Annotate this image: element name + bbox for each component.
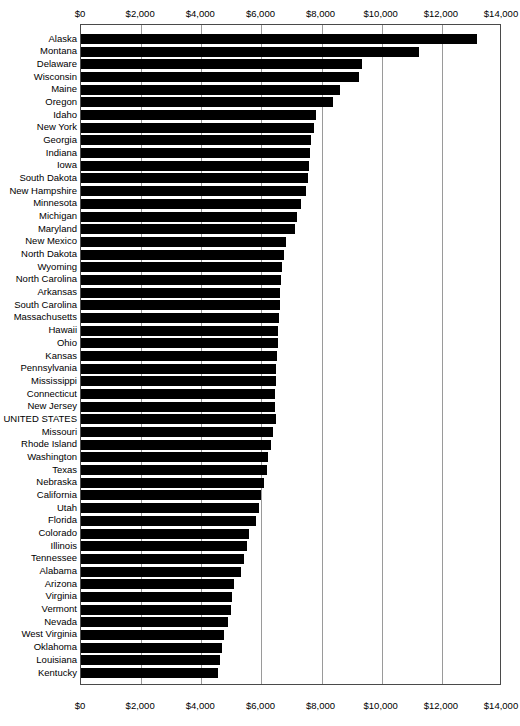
category-label: Florida (0, 514, 77, 525)
bar (81, 478, 264, 488)
plot-area (80, 24, 501, 685)
category-label: Alaska (0, 33, 77, 44)
category-label: Illinois (0, 540, 77, 551)
category-label: New Mexico (0, 235, 77, 246)
category-label: Maine (0, 83, 77, 94)
bar (81, 554, 244, 564)
bar (81, 579, 234, 589)
bar (81, 605, 231, 615)
bar (81, 300, 280, 310)
category-label: California (0, 489, 77, 500)
bar (81, 414, 276, 424)
bar (81, 313, 279, 323)
category-label: Oregon (0, 96, 77, 107)
bar (81, 592, 232, 602)
bar (81, 567, 241, 577)
category-label: Georgia (0, 134, 77, 145)
category-label: Wyoming (0, 261, 77, 272)
bar (81, 186, 306, 196)
category-axis-labels: AlaskaMontanaDelawareWisconsinMaineOrego… (0, 24, 77, 685)
bar (81, 465, 267, 475)
x-tick-label-bottom-6: $12,000 (424, 700, 458, 712)
category-label: Wisconsin (0, 71, 77, 82)
category-label: Virginia (0, 590, 77, 601)
x-tick-label-bottom-7: $14,000 (484, 700, 518, 712)
bar (81, 72, 359, 82)
bar (81, 668, 218, 678)
category-label: Hawaii (0, 324, 77, 335)
x-tick-label-top-6: $12,000 (424, 8, 458, 20)
x-tick-label-bottom-4: $8,000 (306, 700, 335, 712)
category-label: Michigan (0, 210, 77, 221)
bar (81, 351, 277, 361)
category-label: Ohio (0, 337, 77, 348)
x-tick-label-top-2: $4,000 (186, 8, 215, 20)
bar (81, 212, 297, 222)
bar (81, 427, 273, 437)
category-label: Arizona (0, 578, 77, 589)
bar (81, 135, 311, 145)
category-label: Minnesota (0, 197, 77, 208)
bars (81, 25, 500, 684)
bar (81, 617, 228, 627)
bar (81, 655, 220, 665)
x-tick-label-top-7: $14,000 (484, 8, 518, 20)
category-label: Nevada (0, 616, 77, 627)
category-label: Vermont (0, 603, 77, 614)
bar (81, 516, 256, 526)
category-label: New Jersey (0, 400, 77, 411)
category-label: Rhode Island (0, 438, 77, 449)
category-label: Delaware (0, 58, 77, 69)
bottom-axis: $0$2,000$4,000$6,000$8,000$10,000$12,000… (0, 700, 520, 714)
category-label: North Carolina (0, 273, 77, 284)
bar (81, 110, 316, 120)
category-label: Mississippi (0, 375, 77, 386)
bar (81, 529, 249, 539)
bar (81, 85, 340, 95)
bar (81, 224, 295, 234)
x-tick-label-top-0: $0 (75, 8, 86, 20)
category-label: West Virginia (0, 628, 77, 639)
category-label: Kentucky (0, 667, 77, 678)
x-tick-label-top-3: $6,000 (246, 8, 275, 20)
bar (81, 199, 301, 209)
category-label: Washington (0, 451, 77, 462)
bar (81, 490, 261, 500)
category-label: Idaho (0, 109, 77, 120)
category-label: New York (0, 121, 77, 132)
category-label: Louisiana (0, 654, 77, 665)
x-tick-label-bottom-0: $0 (75, 700, 86, 712)
bar (81, 541, 247, 551)
x-tick-label-top-4: $8,000 (306, 8, 335, 20)
category-label: Kansas (0, 350, 77, 361)
category-label: Colorado (0, 527, 77, 538)
x-tick-label-bottom-5: $10,000 (364, 700, 398, 712)
top-axis: $0$2,000$4,000$6,000$8,000$10,000$12,000… (0, 8, 520, 22)
category-label: South Carolina (0, 299, 77, 310)
bar (81, 326, 278, 336)
bar (81, 503, 259, 513)
category-label: Missouri (0, 426, 77, 437)
category-label: Utah (0, 502, 77, 513)
category-label: Nebraska (0, 476, 77, 487)
category-label: Alabama (0, 565, 77, 576)
x-tick-label-top-5: $10,000 (364, 8, 398, 20)
category-label: Connecticut (0, 388, 77, 399)
bar (81, 452, 268, 462)
x-tick-label-bottom-1: $2,000 (126, 700, 155, 712)
category-label: New Hampshire (0, 185, 77, 196)
bar (81, 275, 281, 285)
bar (81, 376, 276, 386)
category-label: Texas (0, 464, 77, 475)
category-label: UNITED STATES (0, 413, 77, 424)
bar-chart: $0$2,000$4,000$6,000$8,000$10,000$12,000… (0, 0, 520, 726)
category-label: Pennsylvania (0, 362, 77, 373)
category-label: Montana (0, 45, 77, 56)
bar (81, 123, 314, 133)
bar (81, 402, 275, 412)
category-label: South Dakota (0, 172, 77, 183)
bar (81, 288, 280, 298)
category-label: Oklahoma (0, 641, 77, 652)
category-label: Tennessee (0, 552, 77, 563)
bar (81, 34, 477, 44)
